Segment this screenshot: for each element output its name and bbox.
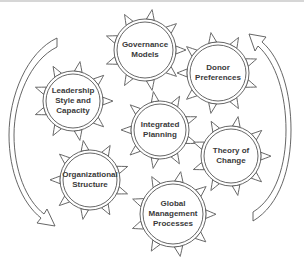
gear-label-organizational-structure: OrganizationalStructure (61, 153, 119, 207)
gear-label-line: Planning (141, 130, 180, 140)
gear-label-line: Donor (195, 63, 241, 73)
gear-label-line: Organizational (62, 170, 118, 180)
gear-label-global-management-processes: GlobalManagementProcesses (141, 184, 205, 244)
gear-tooth-icon (261, 152, 271, 160)
gear-label-line: Change (213, 156, 249, 166)
right-cycle-arrow (249, 34, 291, 221)
gear-label-line: Preferences (195, 73, 241, 83)
gear-label-line: Theory of (213, 146, 249, 156)
gear-tooth-icon (121, 126, 131, 134)
gear-label-line: Management (149, 209, 198, 219)
gear-label-line: Governance (122, 40, 168, 50)
gear-label-line: Leadership (52, 86, 95, 96)
gear-label-line: Models (122, 50, 168, 60)
gear-label-line: Style and (52, 96, 95, 106)
gear-tooth-icon (206, 210, 216, 219)
left-cycle-arrow (9, 38, 57, 226)
gear-label-line: Processes (149, 219, 198, 229)
gear-tooth-icon (177, 69, 187, 77)
gear-label-theory-of-change: Theory ofChange (202, 129, 260, 183)
gear-label-line: Structure (62, 180, 118, 190)
gear-label-governance-models: GovernanceModels (115, 22, 175, 78)
gear-tooth-icon (103, 97, 113, 105)
gear-label-line: Global (149, 199, 198, 209)
gear-tooth-icon (50, 176, 60, 184)
gear-label-line: Capacity (52, 106, 95, 116)
gear-label-line: Integrated (141, 120, 180, 130)
gear-label-integrated-planning: IntegratedPlanning (132, 104, 188, 156)
gear-tooth-icon (176, 46, 186, 54)
gear-label-donor-preferences: DonorPreferences (188, 45, 248, 101)
gear-label-leadership-style-and-capacity: LeadershipStyle andCapacity (44, 74, 102, 128)
